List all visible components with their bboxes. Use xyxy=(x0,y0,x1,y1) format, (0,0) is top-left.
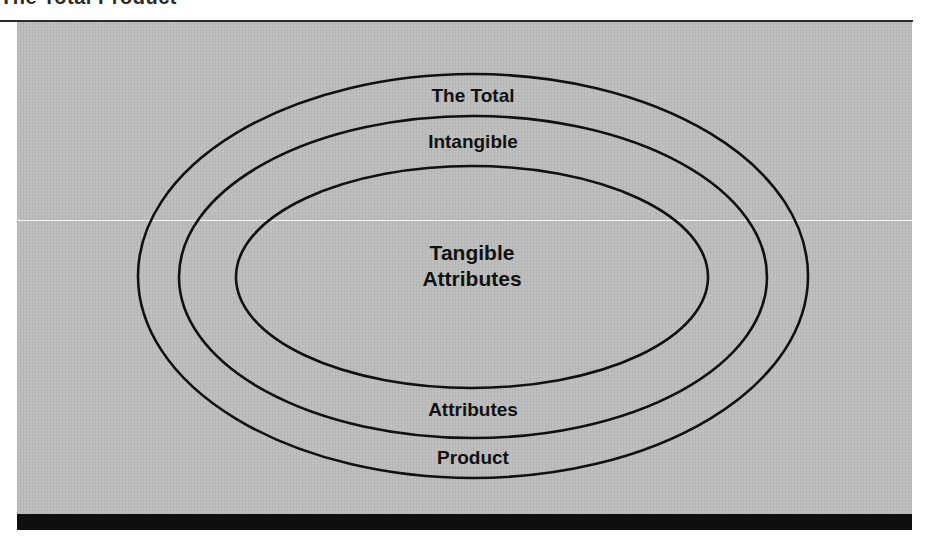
label-product: Product xyxy=(437,447,509,468)
label-tangible: Tangible xyxy=(430,241,515,264)
concentric-ellipses-diagram: The Total Intangible Tangible Attributes… xyxy=(0,0,940,551)
label-tangible-attributes: Attributes xyxy=(422,267,521,290)
label-intangible: Intangible xyxy=(428,131,518,152)
label-the-total: The Total xyxy=(431,85,514,106)
label-attributes: Attributes xyxy=(428,399,518,420)
